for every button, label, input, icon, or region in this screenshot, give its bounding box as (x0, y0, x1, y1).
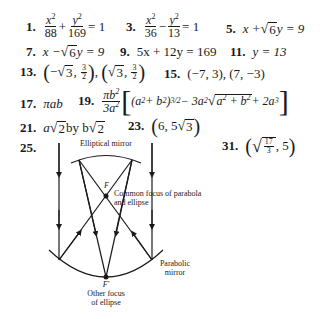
parabolic-mirror-arc (49, 250, 163, 277)
focus-caption: Common focus of parabola (114, 189, 202, 198)
parabolic-mirror-label: Parabolic (160, 259, 191, 268)
parabolic-mirror-label-2: mirror (165, 268, 186, 277)
other-focus-caption-2: of ellipse (91, 298, 121, 307)
elliptical-mirror-label: Elliptical mirror (80, 139, 132, 148)
mirror-diagram: Elliptical mirror F Common focus of para… (0, 0, 331, 319)
focus-label: F (103, 181, 109, 190)
other-focus-label: F′ (102, 280, 110, 289)
focus-caption-2: and ellipse (114, 198, 149, 207)
other-focus-caption: Other focus (87, 289, 125, 298)
focus-point-f-prime (104, 275, 109, 280)
focus-point-f (104, 194, 109, 199)
